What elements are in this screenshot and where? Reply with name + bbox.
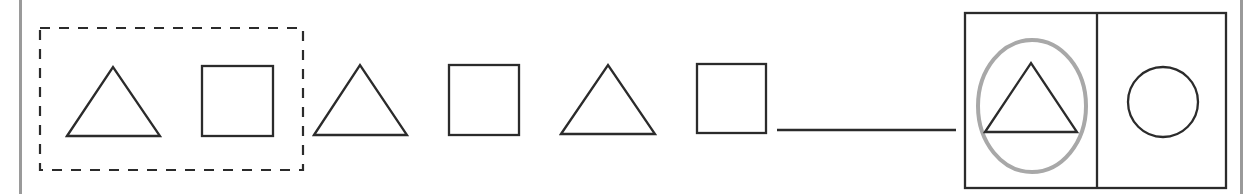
sequence-square-1 [202,66,273,136]
sequence-square-2 [449,65,519,135]
choice-triangle-icon [985,63,1077,132]
choice-circle-icon [1128,67,1198,137]
answer-choice-circle[interactable] [1128,67,1198,137]
pattern-diagram [0,0,1247,194]
sequence-triangle-1 [67,67,160,136]
sequence-triangle-2 [314,65,407,135]
selection-ellipse [978,40,1086,172]
pattern-unit-dashed-box [40,28,303,170]
sequence-triangle-3 [561,65,655,134]
answer-choice-triangle[interactable] [978,40,1086,172]
sequence-square-3 [697,64,766,133]
